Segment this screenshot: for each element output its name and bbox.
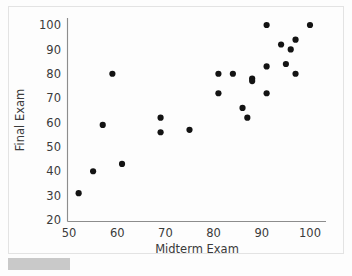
scatter-plot-canvas: 2030405060708090100 5060708090100 Midter…: [0, 0, 352, 276]
data-point: [239, 105, 245, 111]
data-point: [249, 78, 255, 84]
scatter-plot-figure: 2030405060708090100 5060708090100 Midter…: [0, 0, 352, 276]
x-axis-title: Midterm Exam: [155, 242, 239, 256]
x-tick-label: 80: [206, 226, 221, 240]
x-tick-label: 100: [299, 226, 321, 240]
data-point: [264, 63, 270, 69]
data-point: [244, 115, 250, 121]
x-axis-tick-labels: 5060708090100: [62, 226, 321, 240]
y-tick-label: 50: [46, 140, 61, 154]
data-point: [307, 22, 313, 28]
x-tick-label: 50: [62, 226, 77, 240]
data-point: [100, 122, 106, 128]
data-point: [264, 22, 270, 28]
data-point: [157, 129, 163, 135]
y-tick-label: 60: [46, 116, 61, 130]
data-point: [90, 168, 96, 174]
y-tick-label: 80: [46, 67, 61, 81]
data-point: [264, 90, 270, 96]
x-tick-label: 90: [254, 226, 269, 240]
y-tick-label: 100: [39, 18, 61, 32]
data-point: [76, 190, 82, 196]
data-point: [278, 41, 284, 47]
y-axis-title: Final Exam: [13, 89, 27, 151]
y-tick-label: 90: [46, 43, 61, 57]
data-point: [288, 46, 294, 52]
y-axis-tick-labels: 2030405060708090100: [39, 18, 61, 227]
data-point: [283, 61, 289, 67]
data-point: [157, 115, 163, 121]
data-point: [215, 90, 221, 96]
data-point: [119, 161, 125, 167]
y-tick-label: 20: [46, 213, 61, 227]
y-tick-label: 30: [46, 189, 61, 203]
y-tick-label: 40: [46, 164, 61, 178]
y-tick-label: 70: [46, 91, 61, 105]
data-point: [186, 127, 192, 133]
data-point: [215, 71, 221, 77]
scan-artifact-bar: [8, 258, 70, 270]
data-point: [230, 71, 236, 77]
data-points-group: [76, 22, 314, 196]
data-point: [292, 37, 298, 43]
data-point: [292, 71, 298, 77]
x-tick-label: 70: [158, 226, 173, 240]
x-tick-label: 60: [110, 226, 125, 240]
data-point: [109, 71, 115, 77]
